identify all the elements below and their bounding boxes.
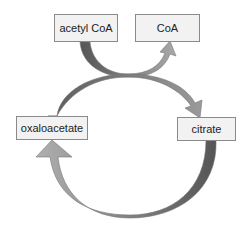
node-label: oxaloacetate [21, 122, 83, 134]
arrow-citrate-to-oxaloacetate [36, 140, 216, 218]
node-coa: CoA [135, 14, 200, 42]
arrows-layer [0, 0, 252, 229]
node-acetyl-coa: acetyl CoA [54, 14, 118, 42]
node-label: acetyl CoA [59, 22, 112, 34]
node-oxaloacetate: oxaloacetate [16, 116, 88, 140]
node-citrate: citrate [177, 117, 236, 141]
node-label: citrate [192, 123, 222, 135]
node-label: CoA [157, 22, 178, 34]
arrow-oxaloacetate-to-citrate [48, 74, 202, 118]
arrow-acetylcoa-to-coa [80, 41, 176, 77]
